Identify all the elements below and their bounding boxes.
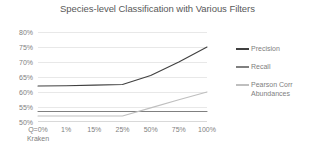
x-axis-tick-label-line1: 15% — [87, 126, 101, 133]
x-axis-tick-label: 50% — [144, 126, 158, 135]
x-axis-tick-label-line1: 1% — [61, 126, 71, 133]
chart-legend: PrecisionRecallPearson Corr Abundances — [236, 44, 315, 107]
x-axis-labels: Q=0%Kraken1%15%25%50%75%100% — [0, 124, 215, 154]
series-line — [38, 47, 207, 86]
x-axis-tick-label-line2: Kraken — [27, 135, 49, 144]
x-axis-tick-label: 25% — [115, 126, 129, 135]
legend-item[interactable]: Precision — [236, 44, 315, 53]
legend-item[interactable]: Recall — [236, 62, 315, 71]
legend-color-swatch — [236, 66, 249, 68]
y-axis-tick-label: 55% — [19, 104, 33, 111]
legend-label: Precision — [251, 44, 280, 53]
chart-container: Species-level Classification with Variou… — [0, 0, 315, 154]
x-axis-tick-label: 1% — [61, 126, 71, 135]
legend-label: Recall — [251, 62, 270, 71]
legend-color-swatch — [236, 84, 249, 86]
x-axis-tick-label: 100% — [198, 126, 216, 135]
legend-color-swatch — [236, 48, 249, 50]
y-axis-tick-label: 75% — [19, 44, 33, 51]
x-axis-tick-label: 15% — [87, 126, 101, 135]
series-lines — [38, 32, 207, 122]
x-axis-tick-label-line1: 50% — [144, 126, 158, 133]
x-axis-tick-label-line1: 75% — [172, 126, 186, 133]
series-line — [38, 92, 207, 116]
y-axis-tick-label: 65% — [19, 74, 33, 81]
legend-label: Pearson Corr Abundances — [251, 80, 313, 98]
y-axis-tick-label: 70% — [19, 59, 33, 66]
y-axis-tick-label: 80% — [19, 29, 33, 36]
x-axis-tick-label-line1: Q=0% — [28, 126, 48, 133]
x-axis-line — [38, 121, 207, 122]
x-axis-tick-label-line1: 100% — [198, 126, 216, 133]
chart-title: Species-level Classification with Variou… — [0, 3, 315, 14]
x-axis-tick-label: Q=0%Kraken — [27, 126, 49, 143]
plot-area — [38, 32, 207, 122]
x-axis-tick-label: 75% — [172, 126, 186, 135]
legend-item[interactable]: Pearson Corr Abundances — [236, 80, 315, 98]
y-axis-tick-label: 60% — [19, 89, 33, 96]
x-axis-tick-label-line1: 25% — [115, 126, 129, 133]
